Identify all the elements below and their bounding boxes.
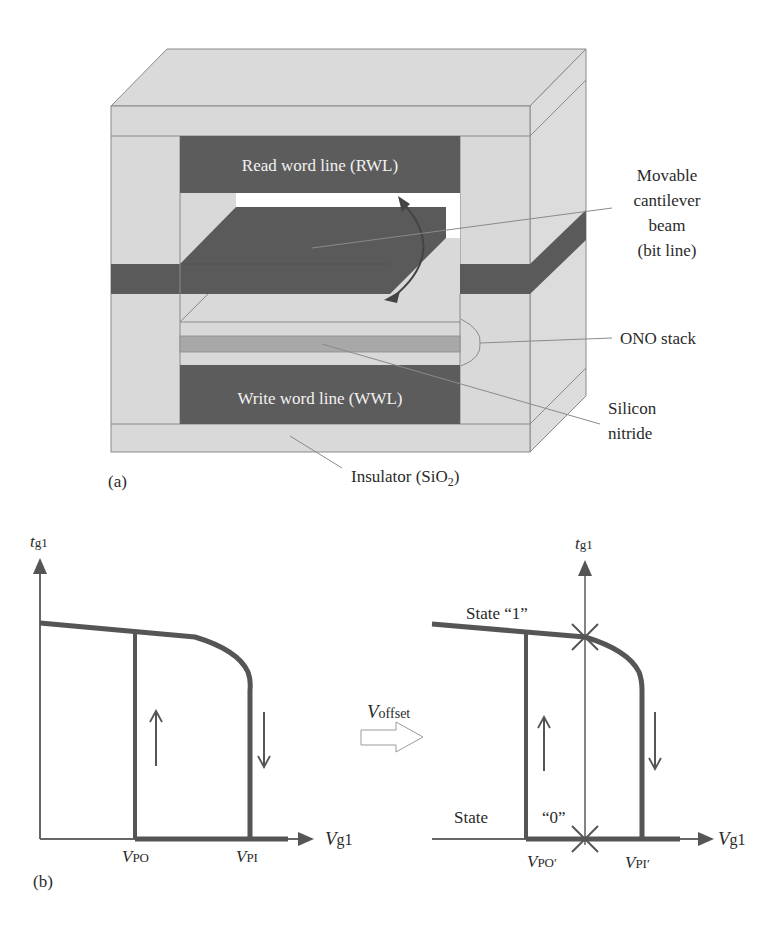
beam-callout-line4: (bit line) — [637, 241, 696, 260]
panel-a-tag: (a) — [108, 472, 127, 491]
left-hysteresis-curve — [40, 623, 250, 839]
vpo-label: VPO — [122, 847, 149, 866]
hollow-arrow-icon — [361, 722, 423, 752]
rwl-label: Read word line (RWL) — [242, 156, 398, 175]
nitride-callout-line2: nitride — [608, 424, 652, 443]
box-top-face — [111, 49, 586, 106]
vpo-prime-label: VPO′ — [527, 852, 557, 871]
vpi-label: VPI — [236, 847, 258, 866]
ono-callout: ONO stack — [620, 329, 697, 348]
state0-label-b: “0” — [542, 808, 566, 827]
beam-callout-line2: cantilever — [633, 191, 700, 210]
panel-b-tag: (b) — [33, 872, 53, 891]
right-y-axis-label: tg1 — [575, 534, 593, 553]
figure-canvas: Read word line (RWL) Write word line (WW… — [0, 0, 775, 927]
state0-label-a: State — [454, 808, 488, 827]
left-x-axis-label: Vg1 — [325, 828, 353, 849]
vpi-prime-label: VPI′ — [625, 853, 650, 872]
silicon-nitride-layer — [180, 336, 460, 352]
right-hysteresis-curve — [432, 624, 642, 839]
beam-callout-line1: Movable — [637, 166, 697, 185]
right-hysteresis-graph: tg1 Vg1 State “1” State “0” VPO′ VPI′ — [432, 534, 746, 872]
left-hysteresis-graph: tg1 Vg1 VPO VPI (b) — [30, 532, 353, 891]
left-y-axis-label: tg1 — [30, 532, 48, 551]
device-3d-diagram: Read word line (RWL) Write word line (WW… — [108, 49, 701, 491]
bit-line-right — [460, 264, 530, 294]
wwl-label: Write word line (WWL) — [238, 389, 403, 408]
right-x-axis-label: Vg1 — [718, 828, 746, 849]
insulator-callout: Insulator (SiO2) — [351, 467, 459, 489]
beam-callout-line3: beam — [649, 216, 686, 235]
nitride-callout-line1: Silicon — [608, 399, 657, 418]
offset-transform: Voffset — [361, 701, 423, 752]
voffset-label: Voffset — [367, 701, 410, 722]
state1-label: State “1” — [466, 604, 528, 623]
